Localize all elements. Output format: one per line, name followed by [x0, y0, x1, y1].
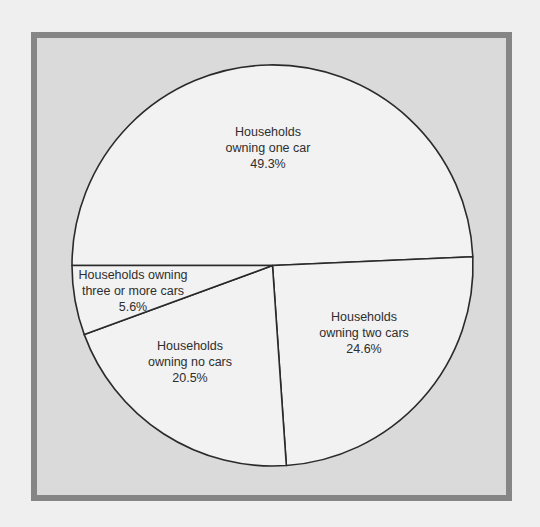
chart-stage: Households owning one car 49.3% Househol…	[0, 0, 540, 527]
slice-label-three-plus-cars: Households owning three or more cars 5.6…	[78, 267, 187, 315]
label-line: Households owning	[78, 267, 187, 283]
pie-slice	[273, 257, 474, 466]
pie-chart	[0, 0, 540, 527]
slice-percentage: 20.5%	[148, 370, 232, 386]
label-line: Households	[148, 338, 232, 354]
slice-label-two-cars: Households owning two cars 24.6%	[319, 309, 409, 357]
label-line: Households	[226, 124, 311, 140]
label-line: Households	[319, 309, 409, 325]
slice-percentage: 5.6%	[78, 299, 187, 315]
slice-label-no-cars: Households owning no cars 20.5%	[148, 338, 232, 386]
label-line: owning one car	[226, 140, 311, 156]
label-line: owning no cars	[148, 354, 232, 370]
label-line: owning two cars	[319, 325, 409, 341]
label-line: three or more cars	[78, 283, 187, 299]
slice-percentage: 49.3%	[226, 156, 311, 172]
slice-percentage: 24.6%	[319, 341, 409, 357]
slice-label-one-car: Households owning one car 49.3%	[226, 124, 311, 172]
